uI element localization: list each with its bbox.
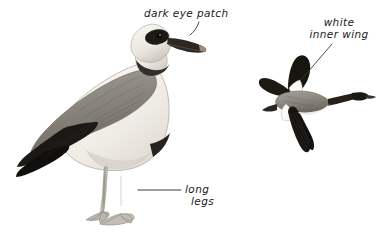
- flying-bird-bill: [366, 95, 376, 99]
- flying-bird-tail: [262, 104, 277, 112]
- annotation-dark-eye-patch-line1: dark eye patch: [144, 7, 229, 19]
- flying-bird-neck: [328, 94, 356, 106]
- annotation-long-legs-line2: legs: [185, 195, 214, 207]
- illustration-plate: dark eye patch white inner wing long leg…: [0, 0, 387, 235]
- standing-bird-eye-highlight: [159, 34, 161, 36]
- flying-bird-head: [352, 92, 368, 100]
- leader-line-dark-eye-patch: [190, 22, 199, 35]
- annotation-white-inner-wing-line1: white: [324, 16, 355, 28]
- annotation-dark-eye-patch: dark eye patch: [144, 7, 229, 19]
- annotation-white-inner-wing-line2: inner wing: [308, 28, 370, 40]
- figure-flying-bird: [259, 55, 376, 152]
- annotation-long-legs: long legs: [185, 183, 214, 207]
- standing-bird-eye: [156, 33, 161, 38]
- figure-standing-bird: [16, 24, 206, 225]
- annotation-long-legs-line1: long: [185, 183, 209, 195]
- annotation-white-inner-wing: white inner wing: [308, 16, 370, 40]
